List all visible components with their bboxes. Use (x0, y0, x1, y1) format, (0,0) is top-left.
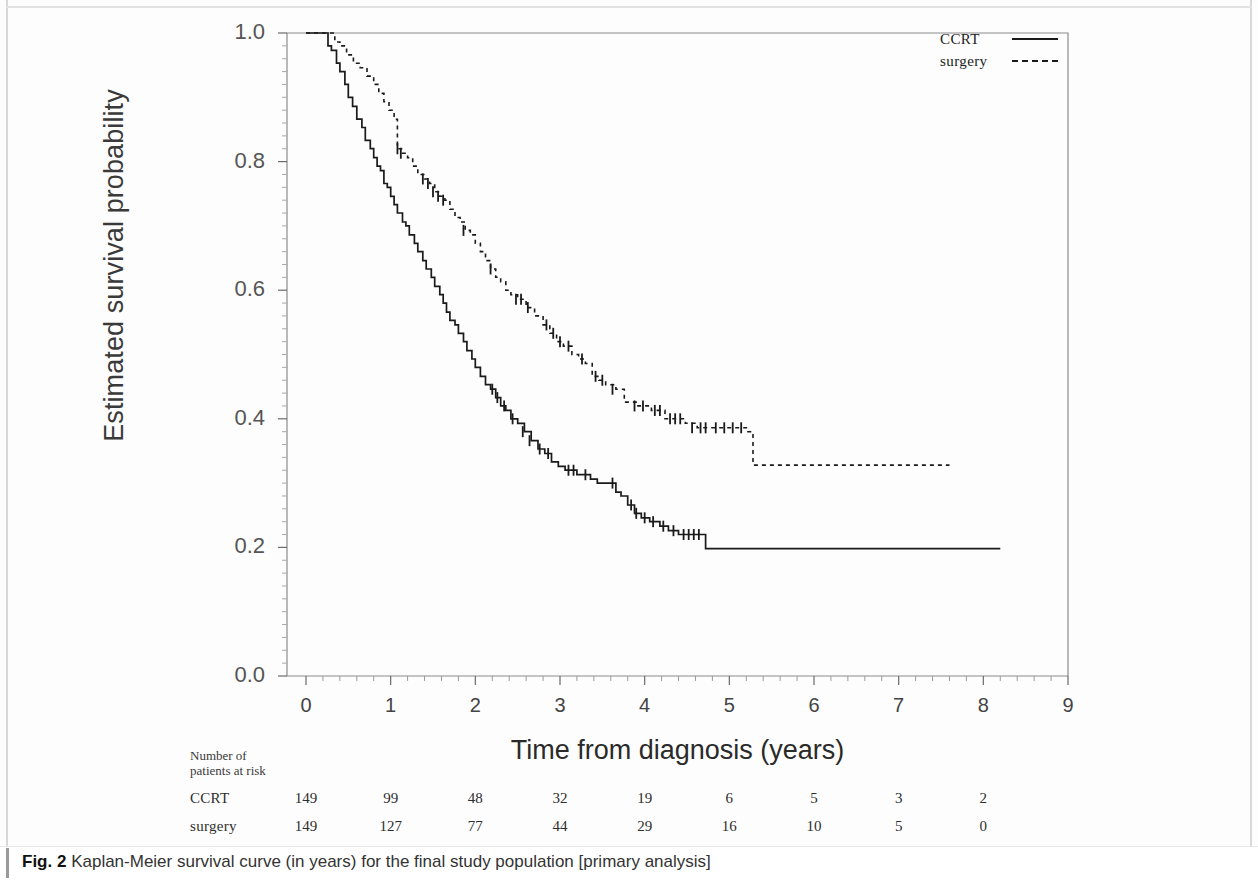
risk-row-label-surgery: surgery (190, 818, 237, 835)
y-axis-title: Estimated survival probability (99, 56, 130, 476)
series-surgery (306, 33, 950, 465)
risk-value: 5 (875, 818, 923, 835)
curves-layer (306, 33, 1000, 549)
risk-value: 44 (536, 818, 584, 835)
risk-value: 6 (705, 790, 753, 807)
risk-table-row: CCRT149994832196532 (0, 790, 1258, 812)
legend-label-surgery: surgery (940, 53, 1008, 70)
risk-value: 149 (282, 790, 330, 807)
x-tick-label: 6 (794, 694, 834, 717)
y-tick-label: 0.4 (203, 405, 265, 431)
risk-table-header: Number of patients at risk (190, 748, 266, 778)
risk-table-header-line2: patients at risk (190, 763, 266, 778)
x-tick-label: 5 (709, 694, 749, 717)
legend: CCRT surgery (940, 28, 1062, 72)
risk-value: 32 (536, 790, 584, 807)
x-tick-label: 9 (1048, 694, 1088, 717)
legend-label-ccrt: CCRT (940, 31, 1008, 48)
survival-curve-surgery (306, 33, 950, 465)
y-tick-label: 0.6 (203, 276, 265, 302)
caption-accent-rule (6, 848, 9, 878)
figure-caption-body: Kaplan-Meier survival curve (in years) f… (66, 852, 710, 871)
risk-value: 127 (367, 818, 415, 835)
y-tick-label: 0.8 (203, 148, 265, 174)
figure-container: Estimated survival probability Time from… (0, 0, 1258, 880)
x-tick-label: 4 (625, 694, 665, 717)
legend-key-solid-line (1008, 33, 1062, 45)
legend-entry-ccrt: CCRT (940, 28, 1062, 50)
risk-value: 29 (621, 818, 669, 835)
series-ccrt (306, 33, 1000, 549)
risk-value: 99 (367, 790, 415, 807)
risk-value: 0 (959, 818, 1007, 835)
y-tick-label: 0.0 (203, 662, 265, 688)
survival-curve-svg (0, 0, 1258, 730)
risk-value: 149 (282, 818, 330, 835)
risk-table-header-line1: Number of (190, 748, 266, 763)
risk-row-label-ccrt: CCRT (190, 790, 229, 807)
risk-value: 16 (705, 818, 753, 835)
risk-value: 2 (959, 790, 1007, 807)
y-tick-label: 1.0 (203, 19, 265, 45)
x-tick-label: 3 (540, 694, 580, 717)
legend-entry-surgery: surgery (940, 50, 1062, 72)
survival-curve-ccrt (306, 33, 1000, 549)
risk-value: 48 (451, 790, 499, 807)
y-tick-label: 0.2 (203, 533, 265, 559)
plot-area: Estimated survival probability Time from… (0, 0, 1258, 730)
axes-layer (278, 33, 1068, 685)
x-tick-label: 2 (455, 694, 495, 717)
risk-value: 5 (790, 790, 838, 807)
risk-value: 19 (621, 790, 669, 807)
x-tick-label: 7 (879, 694, 919, 717)
number-at-risk-table: Number of patients at risk CCRT149994832… (0, 748, 1258, 844)
x-tick-label: 1 (371, 694, 411, 717)
figure-caption-number: Fig. 2 (22, 852, 66, 871)
figure-caption: Fig. 2 Kaplan-Meier survival curve (in y… (22, 852, 711, 872)
legend-key-dashed-line (1008, 55, 1062, 67)
risk-table-row: surgery149127774429161050 (0, 818, 1258, 840)
risk-value: 10 (790, 818, 838, 835)
risk-value: 3 (875, 790, 923, 807)
risk-value: 77 (451, 818, 499, 835)
x-tick-label: 0 (286, 694, 326, 717)
x-tick-label: 8 (963, 694, 1003, 717)
